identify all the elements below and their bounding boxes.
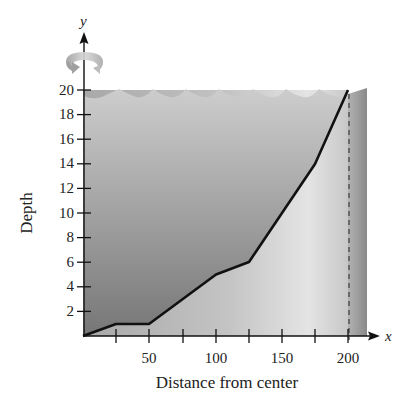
y-tick-label: 20	[59, 82, 74, 98]
x-tick-label: 200	[337, 350, 360, 366]
x-axis-letter: x	[384, 328, 392, 344]
chart: x y 2 4 6 8 10 12 14 16 18 20	[0, 0, 407, 410]
x-tick-label: 150	[271, 350, 294, 366]
y-tick-label: 4	[67, 278, 75, 294]
x-axis-label: Distance from center	[156, 373, 299, 392]
side-edge-region	[348, 88, 367, 336]
y-tick-label: 16	[59, 131, 75, 147]
y-tick-label: 8	[67, 229, 75, 245]
y-tick-label: 18	[59, 106, 74, 122]
y-tick-label: 10	[59, 205, 74, 221]
y-axis-label: Depth	[17, 192, 36, 234]
x-tick-labels: 50 100 150 200	[142, 350, 360, 366]
y-tick-labels: 2 4 6 8 10 12 14 16 18 20	[59, 82, 75, 319]
y-tick-label: 12	[59, 180, 74, 196]
y-tick-label: 6	[67, 254, 75, 270]
y-tick-label: 2	[67, 303, 75, 319]
y-tick-label: 14	[59, 155, 75, 171]
x-tick-label: 100	[205, 350, 228, 366]
x-tick-label: 50	[142, 350, 157, 366]
y-axis-letter: y	[78, 13, 87, 29]
